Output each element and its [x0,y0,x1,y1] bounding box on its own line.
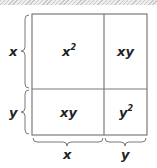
bottom-label-y: y [121,147,130,162]
cell-bottom-left-label: xy [59,105,77,120]
left-brace-bottom [21,90,29,134]
area-model-diagram: x2 xy xy y2 x y x y [0,0,157,168]
cell-top-left-label: x2 [61,43,76,59]
left-brace-top [21,15,29,88]
cell-bottom-right-label: y2 [119,104,133,120]
left-label-y: y [9,105,18,120]
bottom-brace-left [33,138,103,146]
left-label-x: x [8,44,18,59]
bottom-label-x: x [62,147,72,162]
outer-square [32,14,147,135]
cell-top-right-label: xy [116,44,134,59]
bottom-brace-right [105,138,146,146]
